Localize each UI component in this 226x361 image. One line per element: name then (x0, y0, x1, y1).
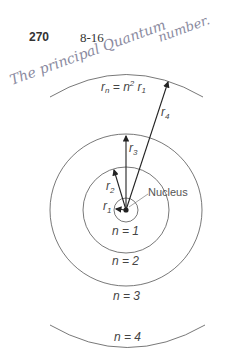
orbit-label-n1: n = 1 (112, 224, 139, 238)
r1-label: r1 (103, 199, 111, 215)
nucleus-label: Nucleus (148, 186, 188, 198)
handwritten-note-line1: The principal Quantum (8, 16, 168, 87)
bohr-orbit-diagram: The principal Quantum number. rn = n2 r1… (0, 0, 226, 361)
formula-label: rn = n2 r1 (101, 79, 146, 95)
r2-label: r2 (106, 179, 115, 195)
orbit-label-n2: n = 2 (112, 254, 139, 268)
nucleus-pointer (129, 194, 148, 207)
handwritten-note-line2: number. (156, 12, 212, 45)
r4-label: r4 (161, 105, 170, 121)
orbit-label-n4: n = 4 (114, 330, 141, 344)
r3-label: r3 (129, 141, 138, 157)
orbit-label-n3: n = 3 (113, 289, 140, 303)
